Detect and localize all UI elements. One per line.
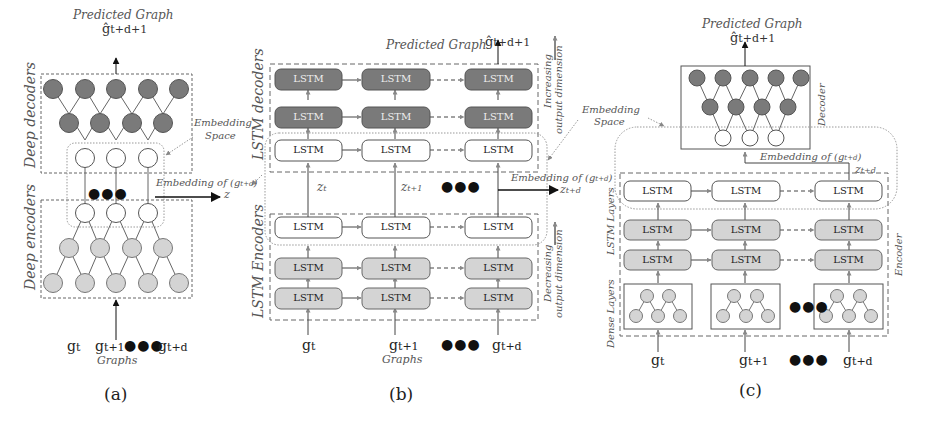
b-decreasing-label-1: Decreasing (542, 245, 553, 302)
b-enc-cell-label: LSTM (362, 262, 430, 273)
b-input-g-t: gt (302, 337, 315, 353)
c-lstm-layers-label: LSTM Layers (605, 187, 616, 255)
c-input-0-sub: t (660, 355, 664, 368)
a-input-g-t: gt (67, 338, 80, 354)
a-input-0-sym: g (67, 338, 76, 354)
c-decoder-label: Decoder (816, 83, 827, 126)
b-dec-cell-label: LSTM (362, 73, 430, 84)
b-predicted-sub: t+d+1 (493, 36, 530, 49)
c-lstm-cell-label: LSTM (712, 254, 780, 265)
c-input-2-sym: g (843, 352, 852, 368)
c-ellipsis-dense: ●●● (789, 298, 829, 314)
a-input-0-sub: t (76, 341, 80, 354)
b-input-0-sym: g (302, 337, 311, 353)
c-dense-blocks (624, 284, 883, 329)
a-ellipsis-middle: ●●● (88, 185, 128, 201)
b-z-0-sub: t (323, 184, 326, 193)
c-lstm-cell-label: LSTM (624, 224, 691, 235)
b-decreasing-label-2: output dimension (553, 229, 564, 318)
c-input-1-sub: t+1 (748, 355, 769, 368)
c-embedding-pointer (648, 118, 664, 126)
a-input-g-td: gt+d (158, 338, 188, 354)
b-lstm-encoders-label: LSTM Encoders (250, 204, 266, 318)
c-dense-layers-label: Dense Layers (605, 279, 616, 348)
b-input-1-sub: t+1 (398, 340, 419, 353)
a-graphs-label: Graphs (97, 354, 137, 367)
b-enc-cell-label: LSTM (465, 292, 532, 303)
c-input-1-sym: g (739, 352, 748, 368)
c-emb-cell-label: LSTM (712, 185, 780, 196)
a-embedding-of-sub: t+d (240, 180, 253, 188)
b-input-2-sym: g (492, 337, 501, 353)
c-predicted-sub: t+d+1 (738, 32, 775, 45)
b-caption: (b) (389, 384, 413, 404)
c-embedding-space-label-2: Space (594, 116, 625, 127)
b-emb-cell-label: LSTM (362, 221, 430, 232)
b-ellipsis-inputs: ●●● (441, 336, 481, 352)
encoder-nodes (44, 239, 189, 293)
c-encoder-label: Encoder (893, 234, 904, 276)
embedding-pointer (166, 137, 193, 155)
c-input-g-td: gt+d (843, 352, 873, 368)
a-caption: (a) (104, 384, 127, 404)
a-deep-encoders-label: Deep encoders (22, 184, 38, 290)
a-embedding-space-label-2: Space (205, 130, 236, 141)
a-predicted-sub: t+d+1 (110, 23, 147, 36)
a-predicted-graph-symbol: ĝt+d+1 (102, 21, 147, 36)
c-input-g-t1: gt+1 (739, 352, 769, 368)
c-lstm-cell-label: LSTM (624, 254, 691, 265)
a-input-1-sub: t+1 (104, 341, 125, 354)
c-lstm-cell-label: LSTM (712, 224, 780, 235)
b-enc-cell-label: LSTM (465, 262, 532, 273)
b-increasing-label-2: output dimension (553, 45, 564, 134)
b-dec-cell-label: LSTM (465, 73, 532, 84)
b-emb-cell-label: LSTM (362, 144, 430, 155)
panel-a (41, 58, 220, 340)
b-increasing-label-1: Increasing (542, 54, 553, 108)
b-embedding-of-label: Embedding of (gt+d) (511, 172, 612, 183)
b-dec-cell-label: LSTM (362, 111, 430, 122)
b-input-1-sym: g (389, 337, 398, 353)
b-z-t-label: zt (317, 180, 327, 194)
c-input-2-sub: t+d (852, 355, 873, 368)
c-embedding-nodes (715, 130, 784, 146)
b-predicted-graph-symbol: ĝt+d+1 (485, 34, 530, 49)
c-emb-cell-label: LSTM (624, 185, 691, 196)
a-z-label: z (224, 188, 230, 201)
b-dec-cell-label: LSTM (275, 111, 342, 122)
c-z-out-label: zt+d (855, 163, 876, 176)
b-input-g-td: gt+d (492, 337, 522, 353)
panel-c (615, 42, 897, 352)
b-input-0-sub: t (311, 340, 315, 353)
a-input-1-sym: g (95, 338, 104, 354)
c-predicted-graph-title: Predicted Graph (702, 17, 802, 31)
b-enc-cell-label: LSTM (275, 262, 342, 273)
b-lstm-decoders-label: LSTM decoders (250, 48, 266, 160)
c-ellipsis-inputs: ●●● (789, 351, 829, 367)
c-input-0-sym: g (651, 352, 660, 368)
c-lstm-cell-label: LSTM (815, 224, 882, 235)
b-ellipsis-middle: ●●● (441, 178, 481, 194)
c-embedding-of-text: Embedding of (g (760, 151, 844, 162)
a-embedding-of-close: ) (254, 177, 258, 188)
c-emb-cell-label: LSTM (815, 185, 882, 196)
a-predicted-graph-title: Predicted Graph (73, 8, 173, 22)
b-enc-cell-label: LSTM (275, 292, 342, 303)
b-embedding-of-text: Embedding of (g (511, 172, 595, 183)
b-input-2-sub: t+d (501, 340, 522, 353)
c-input-g-t: gt (651, 352, 664, 368)
c-embedding-space-label-1: Embedding (582, 104, 640, 115)
b-emb-cell-label: LSTM (465, 144, 532, 155)
b-embedding-of-close: ) (609, 172, 613, 183)
c-caption: (c) (739, 380, 762, 400)
b-predicted-graph-title: Predicted Graph (386, 38, 486, 52)
c-embedding-of-label: Embedding of (gt+d) (760, 151, 861, 162)
b-dec-cell-label: LSTM (275, 73, 342, 84)
b-z-out-sub: t+d (566, 186, 581, 195)
b-dec-cell-label: LSTM (465, 111, 532, 122)
b-emb-cell-label: LSTM (275, 144, 342, 155)
decoder-nodes (44, 80, 189, 133)
c-decoder-nodes (689, 70, 809, 115)
c-embedding-of-close: ) (858, 151, 862, 162)
b-emb-cell-label: LSTM (465, 221, 532, 232)
